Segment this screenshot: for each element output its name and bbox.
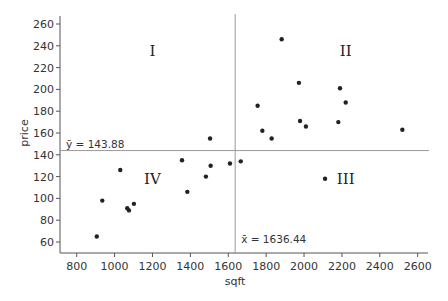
y-tick-label: 180 (33, 105, 54, 118)
x-mean-label: x̄ = 1636.44 (241, 233, 306, 245)
data-point (100, 198, 104, 202)
y-ticks: 6080100120140160180200220240260 (33, 18, 60, 249)
x-tick-label: 1400 (176, 260, 204, 273)
data-point (260, 129, 264, 133)
quadrant-label: IV (144, 170, 162, 188)
data-point (185, 190, 189, 194)
x-axis-title: sqft (225, 275, 246, 288)
data-point (180, 158, 184, 162)
data-point (239, 159, 243, 163)
scatter-chart: 6080100120140160180200220240260 80010001… (0, 0, 448, 301)
y-tick-label: 160 (33, 127, 54, 140)
data-point (255, 104, 259, 108)
y-tick-label: 100 (33, 192, 54, 205)
quadrant-labels: IIIIIIIV (144, 42, 355, 188)
data-point (127, 208, 131, 212)
data-point (336, 120, 340, 124)
quadrant-label: III (337, 170, 355, 188)
x-tick-label: 1800 (252, 260, 280, 273)
y-tick-label: 220 (33, 62, 54, 75)
data-point (118, 168, 122, 172)
quadrant-label: II (340, 42, 352, 60)
data-point (344, 100, 348, 104)
data-point (400, 128, 404, 132)
data-point (269, 136, 273, 140)
x-ticks: 800100012001400160018002000220024002600 (66, 253, 432, 273)
x-tick-label: 2200 (328, 260, 356, 273)
data-points (95, 37, 405, 239)
mean-lines: x̄ = 1636.44 ȳ = 143.88 (60, 14, 429, 253)
x-tick-label: 2600 (404, 260, 432, 273)
data-point (208, 136, 212, 140)
data-point (279, 37, 283, 41)
data-point (95, 234, 99, 238)
data-point (297, 81, 301, 85)
x-tick-label: 1000 (101, 260, 129, 273)
data-point (132, 202, 136, 206)
y-tick-label: 60 (40, 236, 54, 249)
y-axis-title: price (18, 119, 31, 147)
data-point (208, 164, 212, 168)
data-point (304, 124, 308, 128)
x-tick-label: 2400 (366, 260, 394, 273)
data-point (323, 177, 327, 181)
y-tick-label: 240 (33, 40, 54, 53)
x-tick-label: 2000 (290, 260, 318, 273)
quadrant-label: I (150, 42, 156, 60)
x-tick-label: 1200 (138, 260, 166, 273)
data-point (228, 161, 232, 165)
y-tick-label: 200 (33, 83, 54, 96)
y-mean-label: ȳ = 143.88 (66, 138, 124, 150)
data-point (204, 174, 208, 178)
y-tick-label: 80 (40, 214, 54, 227)
y-tick-label: 120 (33, 171, 54, 184)
x-tick-label: 1600 (214, 260, 242, 273)
axes (60, 16, 428, 253)
y-tick-label: 260 (33, 18, 54, 31)
y-tick-label: 140 (33, 149, 54, 162)
data-point (338, 86, 342, 90)
data-point (298, 119, 302, 123)
x-tick-label: 800 (66, 260, 87, 273)
